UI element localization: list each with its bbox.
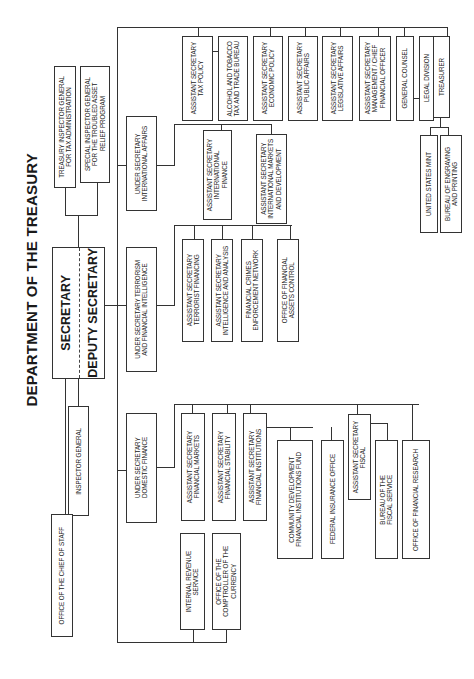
connector [78, 379, 79, 407]
connector [157, 305, 174, 306]
box-fincen: FINANCIAL CRIMES ENFORCEMENT NETWORK [241, 239, 263, 342]
connector [448, 127, 449, 135]
box-label: GENERAL COUNSEL [401, 48, 408, 109]
connector [404, 27, 405, 36]
connector [174, 225, 175, 306]
connector [331, 427, 332, 440]
box-label: LEGAL DIVISION [423, 54, 430, 102]
box-ofr: OFFICE OF FINANCIAL RESEARCH [402, 440, 430, 559]
connector [117, 27, 448, 28]
connector [65, 215, 98, 216]
box-fio: FEDERAL INSURANCE OFFICE [321, 440, 344, 559]
box-label: ASSISTANT SECRETARY TERRORIST FINANCING [186, 254, 201, 326]
connector [174, 124, 175, 166]
box-as-financial-markets: ASSISTANT SECRETARY FINANCIAL MARKETS [181, 413, 205, 521]
connector [174, 124, 272, 125]
box-label: COMMUNITY DEVELOPMENT FINANCIAL INSTITUT… [288, 452, 303, 547]
box-label: UNITED STATES MINT [425, 152, 432, 216]
box-label: UNDER SECRETARY TERRORISM AND FINANCIAL … [134, 260, 149, 359]
box-label: UNDER SECRETARY INTERNATIONAL AFFAIRS [134, 126, 149, 201]
connector [290, 225, 291, 239]
connector [65, 379, 66, 514]
connector [387, 423, 388, 440]
box-label: ASSISTANT SECRETARY INTERNATIONAL MARKET… [260, 139, 282, 219]
box-tigta: TREASURY INSPECTOR GENERAL FOR TAX ADMIN… [54, 66, 76, 188]
chart-title: DEPARTMENT OF THE TREASURY [18, 120, 44, 440]
box-us-international: UNDER SECRETARY INTERNATIONAL AFFAIRS [126, 116, 157, 211]
box-label: OFFICE OF FINANCIAL ASSETS CONTROL [281, 257, 296, 323]
box-bep: BUREAU OF ENGRAVING AND PRINTING [440, 135, 462, 233]
connector [290, 427, 291, 440]
box-label: ASSISTANT SECRETARY FINANCIAL MARKETS [186, 431, 201, 503]
connector [193, 630, 194, 643]
box-label: OFFICE OF THE COMPTROLLER OF THE CURRENC… [215, 546, 237, 617]
connector [194, 225, 195, 239]
chart-title-text: DEPARTMENT OF THE TREASURY [23, 153, 40, 407]
box-label: INTERNAL REVENUE SERVICE [185, 551, 200, 613]
connector [174, 404, 419, 405]
box-label: OFFICE OF THE CHIEF OF STAFF [58, 527, 65, 624]
connector [412, 404, 413, 440]
box-label: ASSISTANT SECRETARY FINANCIAL INSTITUTIO… [248, 429, 263, 505]
box-label: INSPECTOR GENERAL [75, 428, 82, 495]
connector [250, 404, 251, 413]
connector [226, 630, 227, 643]
connector [252, 225, 253, 239]
box-sigtarp: SPECIAL INSPECTOR GENERAL FOR THE TROUBL… [80, 66, 110, 183]
box-label: OFFICE OF FINANCIAL RESEARCH [412, 449, 419, 551]
connector [117, 27, 118, 642]
box-label: ASSISTANT SECRETARY FINANCIAL STABILITY [217, 431, 232, 503]
connector [192, 404, 193, 413]
box-label: BUREAU OF THE FISCAL SERVICE [379, 475, 394, 525]
connector [174, 404, 175, 468]
connector [117, 165, 126, 166]
connector [117, 470, 126, 471]
connector [305, 27, 306, 36]
connector [378, 27, 379, 36]
connector [357, 404, 358, 414]
connector [271, 124, 272, 134]
connector [157, 467, 174, 468]
connector [430, 127, 449, 128]
box-label: FINANCIAL CRIMES ENFORCEMENT NETWORK [245, 250, 260, 331]
connector [117, 642, 227, 643]
box-label: ASSISTANT SECRETARY ECONOMIC POLICY [261, 42, 276, 114]
box-label: SPECIAL INSPECTOR GENERAL FOR THE TROUBL… [84, 77, 106, 171]
box-label: ASSISTANT SECRETARY TAX POLICY [190, 42, 205, 114]
box-label: FEDERAL INSURANCE OFFICE [329, 454, 336, 544]
box-label: TREASURY INSPECTOR GENERAL FOR TAX ADMIN… [58, 76, 73, 178]
connector [227, 404, 228, 413]
box-label: ASSISTANT SECRETARY PUBLIC AFFAIRS [296, 42, 311, 114]
connector [65, 188, 66, 216]
connector [174, 225, 292, 226]
deputy-secretary-cell: DEPUTY SECRETARY [80, 248, 106, 378]
box-cdfi: COMMUNITY DEVELOPMENT FINANCIAL INSTITUT… [277, 440, 313, 559]
box-ttb: ALCOHOL AND TOBACCO TAX AND TRADE BUREAU [218, 36, 248, 121]
connector [222, 225, 223, 239]
box-as-tax-policy: ASSISTANT SECRETARY TAX POLICY [182, 36, 213, 121]
box-treasurer: TREASURER [433, 36, 450, 118]
box-as-intelligence: ASSISTANT SECRETARY INTELLIGENCE AND ANA… [211, 239, 233, 342]
connector [117, 305, 126, 306]
box-us-domestic: UNDER SECRETARY DOMESTIC FINANCE [126, 413, 157, 523]
box-us-terrorism: UNDER SECRETARY TERRORISM AND FINANCIAL … [126, 247, 157, 372]
connector [430, 127, 431, 135]
box-label: TREASURER [438, 58, 445, 96]
connector [97, 183, 98, 216]
box-legal-division: LEGAL DIVISION [419, 36, 434, 121]
box-as-economic-policy: ASSISTANT SECRETARY ECONOMIC POLICY [253, 36, 283, 121]
box-general-counsel: GENERAL COUNSEL [396, 36, 414, 121]
secretary-label: SECRETARY [59, 275, 73, 351]
box-us-mint: UNITED STATES MINT [420, 135, 438, 233]
connector [370, 423, 387, 424]
box-label: ASSISTANT SECRETARY INTELLIGENCE AND ANA… [215, 246, 230, 335]
connector [78, 215, 79, 247]
box-as-legislative-affairs: ASSISTANT SECRETARY LEGISLATIVE AFFAIRS [322, 36, 353, 121]
box-as-international-markets: ASSISTANT SECRETARY INTERNATIONAL MARKET… [256, 134, 287, 224]
box-as-management: ASSISTANT SECRETARY MANAGEMENT / CHIEF F… [359, 36, 391, 121]
box-as-terrorist-financing: ASSISTANT SECRETARY TERRORIST FINANCING [182, 239, 204, 342]
box-label: BUREAU OF ENGRAVING AND PRINTING [444, 147, 459, 221]
box-as-fiscal: ASSISTANT SECRETARY FISCAL [348, 414, 371, 500]
box-label: ALCOHOL AND TOBACCO TAX AND TRADE BUREAU [226, 41, 241, 116]
box-label: UNDER SECRETARY DOMESTIC FINANCE [134, 437, 149, 498]
